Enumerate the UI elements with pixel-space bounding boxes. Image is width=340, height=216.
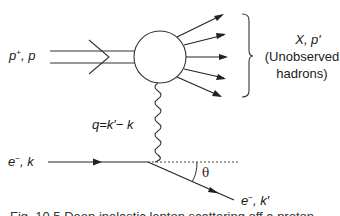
proton-label: p+, p: [9, 49, 35, 62]
virtual-photon-wavy-line: [155, 83, 161, 162]
electron-outgoing-line: [148, 162, 234, 200]
electron-outgoing-label: e−, k′: [241, 194, 269, 207]
hadron-blob: [134, 31, 186, 83]
feynman-diagram: p+, p X, p′ (Unobserved hadrons) q=k′− k…: [0, 0, 340, 216]
arrowheads: [212, 14, 228, 97]
figure-caption: Fig. 10.5 Deep inelastic lepton scatteri…: [10, 209, 314, 216]
scattering-angle-label: θ: [202, 167, 209, 179]
hadrons-description-line2: hadrons): [264, 67, 340, 80]
hadrons-description-line1: (Unobserved: [264, 50, 340, 63]
photon-momentum-label: q=k′− k: [92, 118, 133, 131]
proton-incoming-line: [50, 40, 135, 74]
electron-incoming-arrow: [93, 159, 102, 166]
hadrons-symbol-label: X, p′: [278, 33, 338, 46]
hadrons-brace: [242, 14, 253, 97]
electron-incoming-label: e−, k: [8, 155, 34, 168]
electron-outgoing-arrow: [208, 187, 219, 194]
theta-arc: [192, 162, 197, 182]
